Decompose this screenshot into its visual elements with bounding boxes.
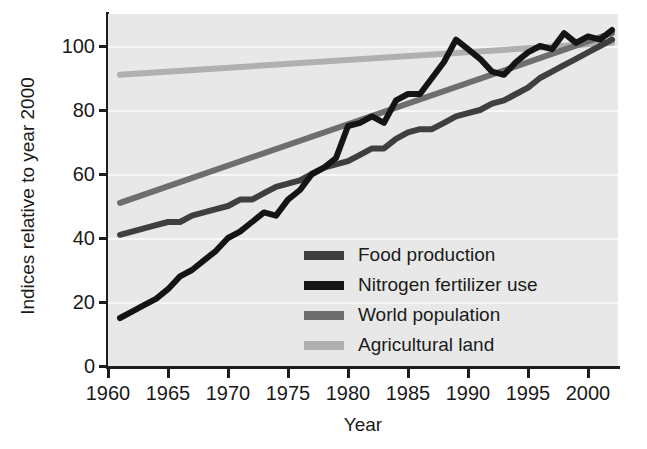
x-tick — [287, 368, 290, 378]
legend-item: Food production — [304, 242, 538, 268]
y-tick — [99, 45, 108, 48]
x-tick-label: 1985 — [386, 382, 431, 405]
x-axis-title: Year — [108, 414, 618, 436]
legend-swatch — [304, 251, 344, 260]
x-tick — [347, 368, 350, 378]
chart-legend: Food productionNitrogen fertilizer useWo… — [304, 242, 538, 358]
y-tick — [99, 173, 108, 176]
legend-item: Agricultural land — [304, 332, 538, 358]
y-tick — [99, 109, 108, 112]
x-tick-label: 2000 — [566, 382, 611, 405]
legend-item: Nitrogen fertilizer use — [304, 272, 538, 298]
x-tick-label: 1980 — [326, 382, 371, 405]
y-tick-label: 100 — [62, 35, 95, 58]
x-tick-label: 1975 — [266, 382, 311, 405]
x-tick — [587, 368, 590, 378]
line-chart-figure: Indices relative to year 2000 0204060801… — [0, 0, 647, 449]
x-tick — [167, 368, 170, 378]
legend-label: World population — [358, 304, 500, 326]
x-axis-ticks: 196019651970197519801985199019952000 — [108, 368, 618, 412]
y-tick-label: 40 — [73, 227, 95, 250]
x-tick — [407, 368, 410, 378]
x-tick-label: 1970 — [206, 382, 251, 405]
y-tick-label: 20 — [73, 291, 95, 314]
y-tick — [99, 237, 108, 240]
y-tick-label: 60 — [73, 163, 95, 186]
x-tick-label: 1960 — [86, 382, 131, 405]
legend-label: Food production — [358, 244, 495, 266]
legend-swatch — [304, 281, 344, 290]
y-tick-label: 0 — [84, 355, 95, 378]
legend-swatch — [304, 311, 344, 320]
legend-item: World population — [304, 302, 538, 328]
y-tick — [99, 301, 108, 304]
y-tick-label: 80 — [73, 99, 95, 122]
plot-area: 020406080100 Food productionNitrogen fer… — [108, 14, 618, 366]
legend-swatch — [304, 341, 344, 350]
x-tick — [227, 368, 230, 378]
legend-label: Agricultural land — [358, 334, 494, 356]
x-tick — [467, 368, 470, 378]
x-tick-label: 1965 — [146, 382, 191, 405]
x-tick-label: 1990 — [446, 382, 491, 405]
y-axis-title: Indices relative to year 2000 — [17, 16, 39, 376]
legend-label: Nitrogen fertilizer use — [358, 274, 538, 296]
x-tick-label: 1995 — [506, 382, 551, 405]
x-tick — [107, 368, 110, 378]
x-tick — [527, 368, 530, 378]
